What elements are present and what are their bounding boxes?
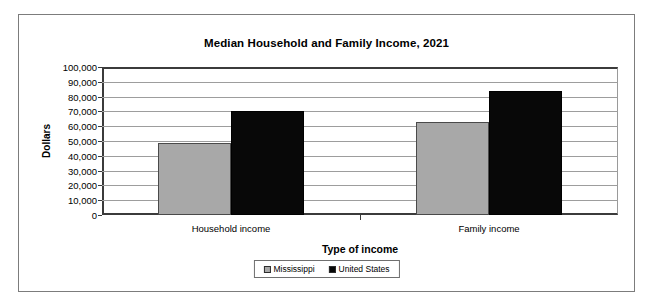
bar-mississippi-household-income: [158, 143, 231, 215]
y-axis-tick-label: 90,000: [68, 76, 97, 87]
legend-label: United States: [339, 264, 390, 274]
y-axis-tick-label: 100,000: [63, 62, 97, 73]
y-axis-tick-mark: [98, 67, 102, 68]
y-axis-tick-label: 30,000: [68, 165, 97, 176]
gridline: [102, 82, 618, 83]
legend-swatch-icon: [263, 266, 270, 273]
bar-united-states-family-income: [489, 91, 562, 215]
x-axis-tick-mark: [360, 215, 361, 220]
y-axis-tick-label: 50,000: [68, 136, 97, 147]
y-axis-tick-mark: [98, 200, 102, 201]
y-axis-tick-label: 20,000: [68, 180, 97, 191]
bar-mississippi-family-income: [416, 122, 489, 215]
legend-item-mississippi: Mississippi: [263, 264, 314, 274]
chart-figure: Median Household and Family Income, 2021…: [18, 14, 635, 292]
y-axis-tick-mark: [98, 82, 102, 83]
y-axis-tick-label: 60,000: [68, 121, 97, 132]
chart-title: Median Household and Family Income, 2021: [19, 37, 634, 49]
chart-legend: MississippiUnited States: [253, 260, 399, 278]
x-axis-category-label: Household income: [192, 223, 271, 234]
bar-united-states-household-income: [231, 111, 304, 215]
y-axis-title: Dollars: [39, 67, 53, 215]
y-axis-tick-mark: [98, 141, 102, 142]
legend-item-united-states: United States: [329, 264, 390, 274]
y-axis-tick-label: 0: [92, 210, 97, 221]
y-axis-tick-mark: [98, 111, 102, 112]
y-axis-tick-mark: [98, 185, 102, 186]
legend-swatch-icon: [329, 266, 336, 273]
y-axis-tick-label: 70,000: [68, 106, 97, 117]
y-axis-tick-mark: [98, 215, 102, 216]
y-axis-tick-mark: [98, 97, 102, 98]
y-axis-tick-label: 80,000: [68, 91, 97, 102]
x-axis-title: Type of income: [102, 243, 618, 255]
y-axis-tick-mark: [98, 171, 102, 172]
y-axis-tick-label: 40,000: [68, 150, 97, 161]
y-axis-tick-mark: [98, 126, 102, 127]
x-axis-category-label: Family income: [458, 223, 519, 234]
plot-frame: 010,00020,00030,00040,00050,00060,00070,…: [102, 67, 618, 215]
legend-label: Mississippi: [273, 264, 314, 274]
y-axis-tick-label: 10,000: [68, 195, 97, 206]
y-axis-tick-mark: [98, 156, 102, 157]
